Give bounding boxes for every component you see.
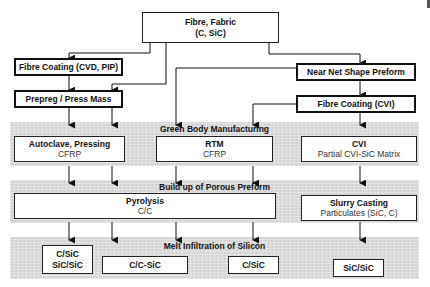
stage-title-porous-preform: Build up of Porous Preform [10,182,419,192]
product-c-sic-label: C/SiC [56,249,79,259]
product-sic-sic-label: SiC/SiC [52,260,83,270]
rtm-subtitle: CFRP [203,149,226,159]
fibre-fabric-label: Fibre, Fabric [185,17,236,27]
pyrolysis-box: Pyrolysis C/C [14,193,276,219]
rtm-title: RTM [205,139,223,149]
product-c-sic-sic-sic-box: C/SiC SiC/SiC [42,245,93,274]
product-c-c-sic-label: C/C-SiC [129,260,161,270]
cvi-title: CVI [352,139,366,149]
autoclave-pressing-subtitle: CFRP [58,149,81,159]
cvi-box: CVI Partial CVI-SiC Matrix [301,136,417,162]
product-c-sic-2-label: C/SiC [242,260,265,270]
near-net-shape-preform-box: Near Net Shape Preform [296,63,416,81]
prepreg-press-mass-box: Prepreg / Press Mass [14,90,123,108]
fibre-fabric-material: (C, SiC) [195,28,226,38]
slurry-casting-subtitle: Particulates (SiC, C) [321,208,398,218]
autoclave-pressing-box: Autoclave, Pressing CFRP [14,136,125,162]
fibre-coating-cvd-pip-box: Fibre Coating (CVD, PIP) [14,58,123,76]
fibre-coating-cvi-box: Fibre Coating (CVI) [296,95,416,113]
cvi-subtitle: Partial CVI-SiC Matrix [318,149,401,159]
pyrolysis-subtitle: C/C [138,206,153,216]
stage-title-green-body: Green Body Manufacturing [10,124,419,134]
product-sic-sic-box: SiC/SiC [333,259,384,277]
autoclave-pressing-title: Autoclave, Pressing [29,139,110,149]
near-net-shape-preform-label: Near Net Shape Preform [307,67,405,77]
slurry-casting-box: Slurry Casting Particulates (SiC, C) [301,195,417,221]
fibre-coating-cvi-label: Fibre Coating (CVI) [318,99,395,109]
prepreg-press-mass-label: Prepreg / Press Mass [26,94,112,104]
fibre-coating-cvd-pip-label: Fibre Coating (CVD, PIP) [19,62,118,72]
rtm-box: RTM CFRP [156,136,273,162]
slurry-casting-title: Slurry Casting [330,198,388,208]
product-sic-sic-2-label: SiC/SiC [343,263,374,273]
fibre-fabric-box: Fibre, Fabric (C, SiC) [142,12,279,43]
product-c-sic-box: C/SiC [228,256,279,274]
pyrolysis-title: Pyrolysis [126,196,164,206]
product-c-c-sic-box: C/C-SiC [102,256,188,274]
